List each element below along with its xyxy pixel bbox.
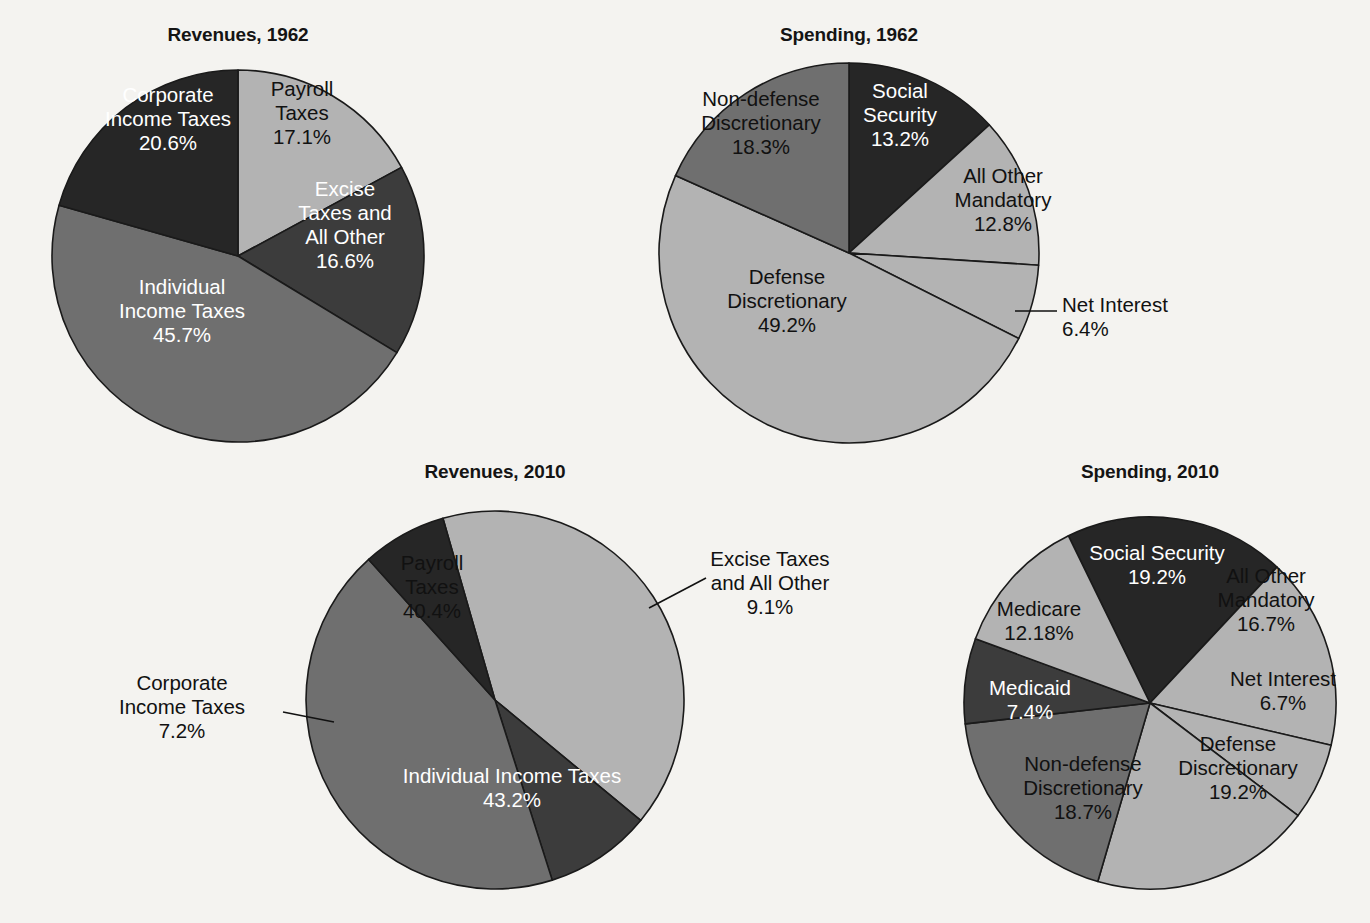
pie-spending-2010: Social Security19.2%All OtherMandatory16… [0, 0, 1370, 923]
chart-panel-spending-2010: Spending, 2010Social Security19.2%All Ot… [0, 0, 1370, 923]
slice-label: Medicare12.18% [997, 597, 1081, 644]
figure-canvas: Revenues, 1962PayrollTaxes17.1%ExciseTax… [0, 0, 1370, 923]
